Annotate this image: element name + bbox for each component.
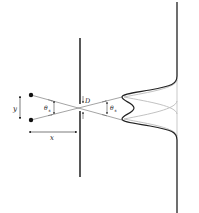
point-source-bottom [29,118,33,122]
label-y: y [12,105,18,113]
diagram-svg: y x θ s θ s D [0,0,199,213]
point-source-top [29,93,33,97]
label-theta-right: θ [110,104,114,111]
label-theta-left-sub: s [49,108,51,113]
label-D: D [84,97,91,105]
label-theta-right-sub: s [115,108,117,113]
diagram-canvas: y x θ s θ s D [0,0,199,213]
individual-intensity-curves [124,80,177,136]
label-theta-left: θ [44,104,48,111]
label-x: x [50,134,54,142]
